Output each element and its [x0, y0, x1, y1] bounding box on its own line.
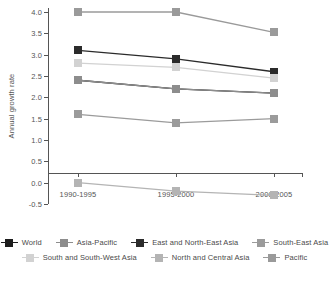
y-axis-tick [44, 76, 48, 77]
legend-label: South and South-West Asia [43, 253, 137, 262]
y-axis-tick [44, 204, 48, 205]
y-axis-tick [44, 161, 48, 162]
y-axis-tick-label: 0.0 [31, 178, 42, 187]
legend-marker-icon [252, 238, 269, 247]
legend-item[interactable]: North and Central Asia [151, 253, 250, 262]
data-point-marker [172, 187, 180, 195]
legend-row: WorldAsia-PacificEast and North-East Asi… [0, 238, 329, 247]
y-axis-tick [44, 97, 48, 98]
legend-item[interactable]: Asia-Pacific [56, 238, 117, 247]
chart-legend: WorldAsia-PacificEast and North-East Asi… [0, 238, 329, 268]
legend-marker-icon [131, 238, 148, 247]
y-axis-tick-label: 2.0 [31, 93, 42, 102]
y-axis-tick-label: 4.0 [31, 8, 42, 17]
legend-item[interactable]: South-East Asia [252, 238, 328, 247]
data-point-marker [74, 179, 82, 187]
legend-label: World [22, 238, 42, 247]
x-axis-tick [176, 173, 177, 177]
legend-label: North and Central Asia [172, 253, 250, 262]
legend-row: South and South-West AsiaNorth and Centr… [0, 253, 329, 262]
legend-label: East and North-East Asia [152, 238, 238, 247]
growth-rate-line-chart: Annual growth rate 4.03.53.02.52.01.51.0… [0, 0, 329, 286]
data-point-marker [74, 8, 82, 16]
y-axis-tick-label: 2.5 [31, 72, 42, 81]
data-point-marker [172, 8, 180, 16]
y-axis-tick [44, 12, 48, 13]
y-axis-tick [44, 55, 48, 56]
y-axis-tick-label: 1.5 [31, 114, 42, 123]
data-point-marker [172, 85, 180, 93]
legend-item[interactable]: East and North-East Asia [131, 238, 238, 247]
x-axis-tick [78, 173, 79, 177]
x-axis-tick [274, 173, 275, 177]
legend-marker-icon [1, 238, 18, 247]
legend-marker-icon [22, 253, 39, 262]
data-point-marker [270, 191, 278, 199]
data-point-marker [74, 110, 82, 118]
data-point-marker [74, 76, 82, 84]
y-axis-tick-label: -0.5 [29, 200, 42, 209]
legend-marker-icon [56, 238, 73, 247]
data-point-marker [172, 119, 180, 127]
y-axis-tick [44, 33, 48, 34]
y-axis-tick [44, 140, 48, 141]
legend-marker-icon [263, 253, 280, 262]
data-point-marker [270, 115, 278, 123]
x-axis-tick-label: 1990-1995 [60, 190, 97, 199]
legend-marker-icon [151, 253, 168, 262]
y-axis-tick [44, 119, 48, 120]
y-axis-tick-label: 3.5 [31, 29, 42, 38]
x-axis-end-tick [302, 173, 303, 177]
data-point-marker [172, 55, 180, 63]
legend-label: Asia-Pacific [77, 238, 117, 247]
y-axis-line [48, 8, 49, 204]
y-axis-title: Annual growth rate [4, 8, 18, 204]
data-point-marker [270, 89, 278, 97]
legend-item[interactable]: Pacific [263, 253, 307, 262]
y-axis-tick-label: 3.0 [31, 50, 42, 59]
data-point-marker [74, 59, 82, 67]
y-axis-tick-label: 1.0 [31, 136, 42, 145]
legend-item[interactable]: World [1, 238, 42, 247]
plot-area: 4.03.53.02.52.01.51.00.50.0-0.5 1990-199… [48, 8, 304, 204]
data-point-marker [270, 28, 278, 36]
legend-item[interactable]: South and South-West Asia [22, 253, 137, 262]
y-axis-tick-label: 0.5 [31, 157, 42, 166]
y-axis-tick [44, 183, 48, 184]
legend-label: South-East Asia [273, 238, 328, 247]
data-point-marker [74, 46, 82, 54]
data-point-marker [172, 63, 180, 71]
data-point-marker [270, 74, 278, 82]
legend-label: Pacific [284, 253, 307, 262]
